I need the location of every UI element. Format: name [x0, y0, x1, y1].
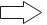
- right-arrow-icon: [0, 0, 47, 25]
- right-arrow-button[interactable]: [0, 0, 47, 25]
